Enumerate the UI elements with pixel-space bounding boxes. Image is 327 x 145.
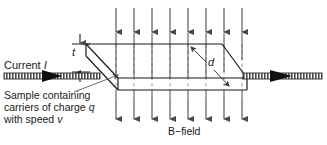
current-label: Current I: [4, 60, 47, 71]
b-field-lines-upper-continuation: [116, 33, 242, 44]
current-arrowhead-right: [270, 70, 292, 82]
b-field-label: B−field: [168, 126, 200, 137]
hall-effect-figure: ·· Current I t d B−field Sample containi…: [0, 0, 327, 145]
charge-symbol: q: [89, 101, 95, 113]
speed-symbol: v: [57, 113, 62, 125]
sample-caption-line-2: carriers of charge q: [4, 101, 94, 113]
b-field-arrows-top: [116, 8, 242, 32]
thickness-label: t: [72, 47, 75, 58]
sample-caption-line-1: Sample containing: [4, 89, 94, 101]
slab-top-face: [86, 44, 247, 78]
current-label-text: Current: [4, 59, 44, 71]
sample-caption-line-2-text: carriers of charge: [4, 101, 89, 113]
sample-caption: Sample containing carriers of charge q w…: [4, 89, 94, 125]
sample-caption-line-3-text: with speed: [4, 113, 57, 125]
current-arrowhead-left: [42, 70, 62, 82]
b-field-lines-lower-continuation: [116, 90, 242, 99]
current-symbol: I: [44, 59, 47, 71]
sample-caption-line-3: with speed v: [4, 113, 94, 125]
depth-label: d: [208, 57, 214, 68]
b-field-arrows-bottom: [116, 99, 242, 119]
current-wire-right: [243, 70, 322, 82]
scan-artifact: ··: [22, 1, 26, 12]
